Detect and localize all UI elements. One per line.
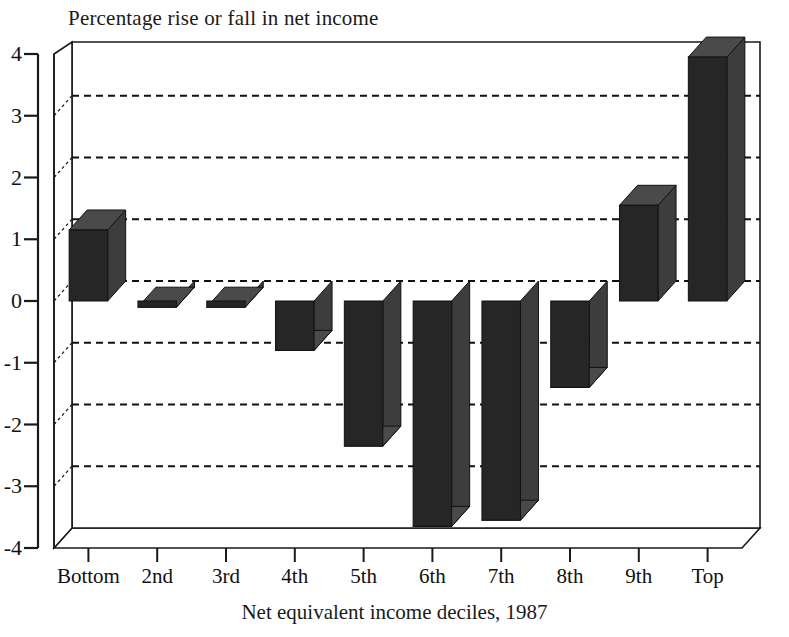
- bar: [688, 37, 745, 301]
- x-axis-tick-label: 4th: [260, 566, 329, 587]
- x-axis-title: Net equivalent income deciles, 1987: [0, 600, 789, 625]
- y-axis-tick-label: 0: [0, 290, 22, 312]
- x-axis-ticks: [88, 548, 707, 562]
- x-axis-tick-label: 5th: [329, 566, 398, 587]
- x-axis-tick-label: 9th: [604, 566, 673, 587]
- y-axis-spine: [24, 54, 38, 548]
- bar-front-face: [69, 230, 108, 301]
- bar-side-face: [727, 37, 745, 301]
- bar-front-face: [413, 301, 452, 526]
- bar-side-face: [520, 281, 538, 520]
- bar: [413, 281, 470, 526]
- bar: [620, 185, 677, 301]
- x-axis-tick-label: Bottom: [54, 566, 123, 587]
- y-axis-tick-label: -4: [0, 537, 22, 559]
- y-axis-tick-label: -1: [0, 352, 22, 374]
- bar-front-face: [688, 57, 727, 301]
- bar-front-face: [138, 301, 177, 307]
- chart-page: Percentage rise or fall in net income 43…: [0, 0, 789, 637]
- y-axis-tick-label: 2: [0, 167, 22, 189]
- chart-plot-area: [0, 0, 789, 637]
- bar-side-face: [452, 281, 470, 526]
- bar: [69, 210, 126, 301]
- bar-front-face: [620, 205, 659, 301]
- y-axis-tick-label: 3: [0, 105, 22, 127]
- bar-front-face: [344, 301, 383, 446]
- y-axis-tick-label: 4: [0, 43, 22, 65]
- bar: [482, 281, 539, 520]
- bar-front-face: [207, 301, 246, 307]
- bar-side-face: [383, 281, 401, 446]
- y-axis-tick-label: -3: [0, 475, 22, 497]
- x-axis-tick-label: 7th: [467, 566, 536, 587]
- x-axis-tick-label: Top: [673, 566, 742, 587]
- bar-front-face: [276, 301, 315, 350]
- x-axis-tick-label: 8th: [536, 566, 605, 587]
- y-axis-tick-label: -2: [0, 414, 22, 436]
- x-axis-tick-label: 6th: [398, 566, 467, 587]
- plot-floor: [54, 528, 760, 548]
- bar-front-face: [551, 301, 590, 387]
- x-axis-tick-label: 2nd: [123, 566, 192, 587]
- y-axis-tick-label: 1: [0, 228, 22, 250]
- x-axis-tick-label: 3rd: [192, 566, 261, 587]
- bar-front-face: [482, 301, 521, 520]
- bar: [344, 281, 401, 446]
